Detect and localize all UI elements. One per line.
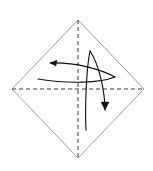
origami-diagram (0, 0, 153, 171)
origami-figure-svg (0, 0, 153, 171)
